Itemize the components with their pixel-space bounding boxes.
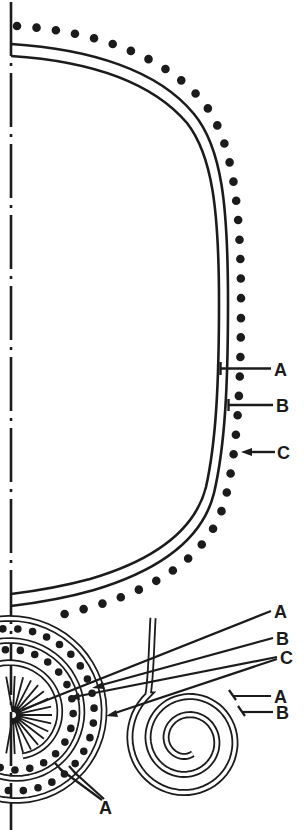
envelope-outer-wall	[11, 44, 228, 606]
envelope-dot-layer	[17, 26, 241, 616]
label-a: A	[274, 360, 287, 380]
label-b: B	[276, 629, 289, 649]
arrowhead	[241, 448, 252, 456]
patent-figure: A B C A B C A B	[0, 0, 307, 830]
envelope-inner-wall	[11, 56, 219, 594]
diagram-canvas: A B C A B C A B	[0, 0, 307, 830]
label-c: C	[277, 443, 290, 463]
leader-line	[112, 659, 277, 714]
leader-line	[74, 772, 104, 799]
envelope-annotation-C: C	[241, 443, 290, 463]
label-b: B	[276, 703, 289, 723]
spiral-annotation-B: B	[238, 703, 289, 723]
arrowhead	[106, 710, 118, 717]
label-b: B	[276, 396, 289, 416]
envelope-annotation-A: A	[221, 360, 288, 380]
spiral-film-tube	[130, 618, 235, 793]
label-a: A	[274, 602, 287, 622]
label-c: C	[280, 648, 293, 668]
leader-tick	[69, 766, 77, 775]
roll-annotation-B: B	[92, 629, 289, 689]
label-a: A	[99, 798, 112, 818]
